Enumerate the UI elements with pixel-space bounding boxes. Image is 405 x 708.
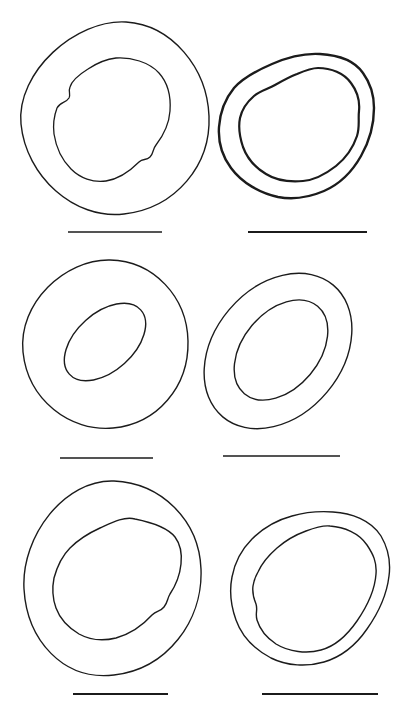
figure3-outer-wall <box>23 260 188 428</box>
figure4-outer-wall <box>174 244 383 458</box>
figure5-inner-lumen <box>53 518 182 639</box>
figure1-outer-wall <box>21 22 209 215</box>
figure2-inner-lumen <box>239 68 359 181</box>
figure3-inner-lumen <box>50 288 160 395</box>
figure2-outer-wall <box>219 54 374 198</box>
line-drawing-canvas <box>0 0 405 708</box>
figure5-outer-wall <box>24 481 201 676</box>
figure-plate <box>0 0 405 708</box>
figure6-outer-wall <box>231 512 390 665</box>
figure1-inner-lumen <box>54 58 171 182</box>
figure6-inner-lumen <box>253 526 376 652</box>
